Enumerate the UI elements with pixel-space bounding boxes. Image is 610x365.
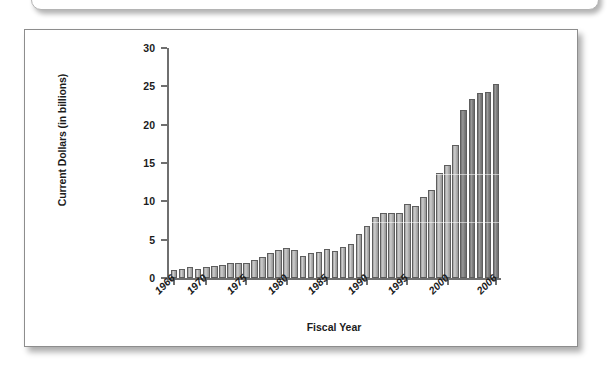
y-axis-tick-label: 15 [129,158,155,168]
bar-chart: Current Dollars (in billions) 0510152025… [25,30,579,348]
bar-1999 [436,173,443,278]
bar-1976 [251,260,258,278]
bar-1972 [219,265,226,278]
y-axis-tick-label: 5 [129,235,155,245]
y-axis-tick-label: 0 [129,273,155,283]
bar-1978 [267,253,274,278]
bar-1967 [179,269,186,278]
y-axis-tick-label: 20 [129,120,155,130]
bar-2005 [485,92,492,278]
y-axis-title: Current Dollars (in billions) [56,40,68,240]
bar-2001 [452,145,459,278]
x-axis-title: Fiscal Year [167,321,501,333]
bar-1981 [291,250,298,278]
bar-2002 [460,110,467,278]
bar-2000 [444,165,451,278]
y-axis-tick [161,200,167,202]
bar-1983 [308,253,315,278]
chart-card: Current Dollars (in billions) 0510152025… [24,29,578,347]
bar-1988 [348,244,355,279]
bar-1997 [420,197,427,278]
bar-1986 [332,251,339,278]
y-axis-tick [161,124,167,126]
bar-1993 [388,213,395,278]
bar-1991 [372,217,379,278]
bars-group [170,48,500,278]
y-axis-tick [161,85,167,87]
bar-1973 [227,263,234,278]
y-axis-tick [161,162,167,164]
bar-1996 [412,206,419,278]
bar-1994 [396,213,403,278]
bar-1987 [340,247,347,278]
bar-2003 [469,99,476,278]
bar-1995 [404,204,411,278]
y-axis-tick [161,239,167,241]
bar-1982 [300,256,307,278]
bar-1998 [428,190,435,278]
y-axis-tick-labels: 051015202530 [123,30,155,348]
bar-2004 [477,93,484,278]
top-banner-strip [31,0,599,10]
bar-1971 [211,266,218,278]
y-axis-line [167,48,169,279]
y-axis-tick-label: 30 [129,43,155,53]
bar-1990 [364,226,371,278]
bar-1977 [259,257,266,278]
bar-2006 [493,84,500,278]
y-axis-tick-label: 25 [129,81,155,91]
y-axis-tick [161,47,167,49]
bar-1992 [380,213,387,278]
y-axis-tick-label: 10 [129,196,155,206]
bar-1968 [187,267,194,278]
